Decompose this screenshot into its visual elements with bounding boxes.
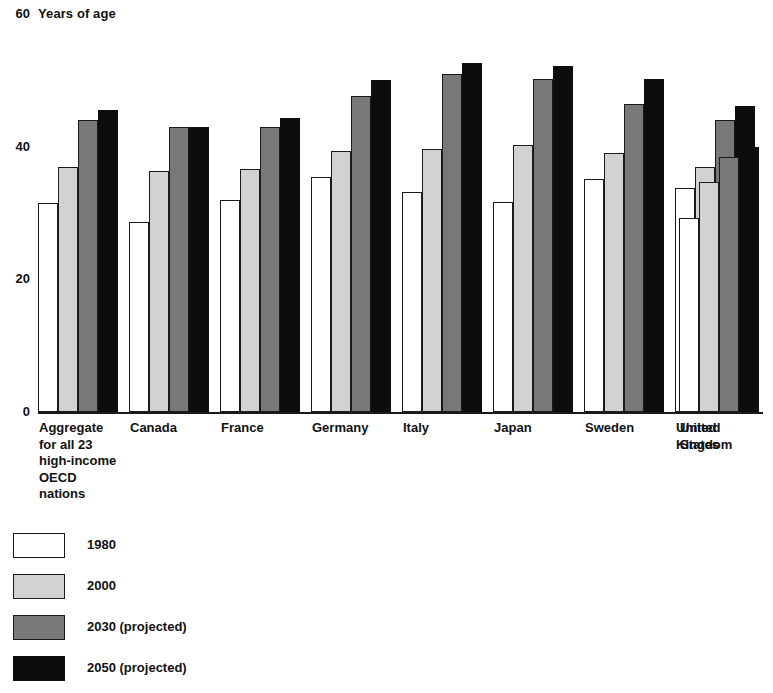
bar-2000 — [699, 182, 719, 412]
legend-label: 1980 — [87, 537, 116, 552]
y-axis-top-tick-label: 60 — [2, 6, 30, 21]
black-swatch — [13, 656, 65, 681]
category-label-line: for all 23 — [39, 437, 135, 454]
category-label: Japan — [494, 420, 590, 437]
category-label-line: Aggregate — [39, 420, 135, 437]
category-label: Canada — [130, 420, 226, 437]
category-label-line: United — [680, 420, 773, 437]
bar-2000 — [240, 169, 260, 412]
bar-2050-projected- — [644, 79, 664, 412]
bar-2050-projected- — [98, 110, 118, 412]
plot-area — [38, 14, 766, 412]
category-label-line: high-income — [39, 453, 135, 470]
bar-group — [402, 14, 482, 412]
category-label-line: Japan — [494, 420, 590, 437]
bar-1980 — [402, 192, 422, 412]
white-swatch — [13, 533, 65, 558]
legend-label: 2030 (projected) — [87, 619, 187, 634]
category-label: Italy — [403, 420, 499, 437]
category-label-line: Germany — [312, 420, 408, 437]
bar-2030-projected- — [719, 157, 739, 412]
category-label: France — [221, 420, 317, 437]
bar-group — [493, 14, 573, 412]
bar-2000 — [513, 145, 533, 412]
bar-group — [220, 14, 300, 412]
category-label-line: nations — [39, 486, 135, 503]
y-axis-tick-0: 0 — [2, 404, 30, 419]
bar-1980 — [129, 222, 149, 412]
bar-1980 — [679, 218, 699, 412]
bar-2050-projected- — [739, 147, 759, 412]
category-label-line: Italy — [403, 420, 499, 437]
category-label-line: Canada — [130, 420, 226, 437]
bar-2000 — [604, 153, 624, 412]
bar-1980 — [38, 203, 58, 412]
bar-2000 — [149, 171, 169, 412]
category-label: Germany — [312, 420, 408, 437]
bar-group — [311, 14, 391, 412]
bar-chart: 60 Years of age 02040 Aggregatefor all 2… — [0, 0, 773, 693]
y-axis-tick-40: 40 — [2, 139, 30, 154]
bar-2030-projected- — [442, 74, 462, 412]
bar-2050-projected- — [189, 127, 209, 412]
category-label: UnitedStates — [680, 420, 773, 453]
bar-2030-projected- — [533, 79, 553, 412]
bar-2030-projected- — [624, 104, 644, 412]
legend-label: 2000 — [87, 578, 116, 593]
category-label-line: France — [221, 420, 317, 437]
category-label-line: Sweden — [585, 420, 681, 437]
bar-2050-projected- — [371, 80, 391, 412]
category-label: Sweden — [585, 420, 681, 437]
bar-group — [584, 14, 664, 412]
bar-2030-projected- — [169, 127, 189, 412]
bar-2050-projected- — [280, 118, 300, 412]
category-label-line: OECD — [39, 470, 135, 487]
bar-2000 — [422, 149, 442, 412]
bar-2050-projected- — [462, 63, 482, 412]
bar-2030-projected- — [78, 120, 98, 412]
bar-group — [129, 14, 209, 412]
legend-label: 2050 (projected) — [87, 660, 187, 675]
bar-2000 — [331, 151, 351, 412]
light-gray-swatch — [13, 574, 65, 599]
dark-gray-swatch — [13, 615, 65, 640]
bar-2030-projected- — [351, 96, 371, 412]
bar-2030-projected- — [260, 127, 280, 412]
category-label: Aggregatefor all 23high-incomeOECDnation… — [39, 420, 135, 503]
y-axis-tick-20: 20 — [2, 271, 30, 286]
bar-1980 — [493, 202, 513, 412]
x-axis-baseline — [38, 412, 763, 414]
bar-2000 — [58, 167, 78, 412]
bar-1980 — [311, 177, 331, 412]
bar-1980 — [220, 200, 240, 412]
bar-1980 — [584, 179, 604, 412]
bar-group — [38, 14, 118, 412]
category-label-line: States — [680, 437, 773, 454]
bar-2050-projected- — [553, 66, 573, 412]
